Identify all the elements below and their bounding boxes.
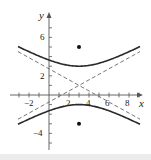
y-axis-arrow-icon bbox=[47, 12, 52, 18]
asymptotes bbox=[18, 52, 140, 120]
focus-upper bbox=[77, 45, 81, 49]
hyperbola-figure: −2 2 4 6 8 x 6 2 −4 y bbox=[0, 0, 151, 154]
upper-branch bbox=[18, 47, 140, 67]
focus-lower bbox=[77, 122, 81, 126]
x-axis-label: x bbox=[138, 97, 144, 109]
x-tick-label-4: 4 bbox=[86, 98, 91, 108]
x-tick-label-6: 6 bbox=[105, 98, 110, 108]
lower-branch bbox=[18, 105, 140, 125]
bottom-strip bbox=[0, 154, 151, 160]
y-axis-label: y bbox=[38, 9, 44, 21]
y-tick-label-neg4: −4 bbox=[33, 128, 43, 138]
x-tick-label-neg2: −2 bbox=[24, 98, 34, 108]
hyperbola-branches bbox=[18, 47, 140, 125]
y-tick-label-6: 6 bbox=[40, 32, 45, 42]
y-tick-label-2: 2 bbox=[40, 71, 45, 81]
x-tick-label-8: 8 bbox=[125, 98, 130, 108]
hyperbola-plot: −2 2 4 6 8 x 6 2 −4 y bbox=[0, 0, 151, 154]
axes bbox=[10, 12, 143, 150]
